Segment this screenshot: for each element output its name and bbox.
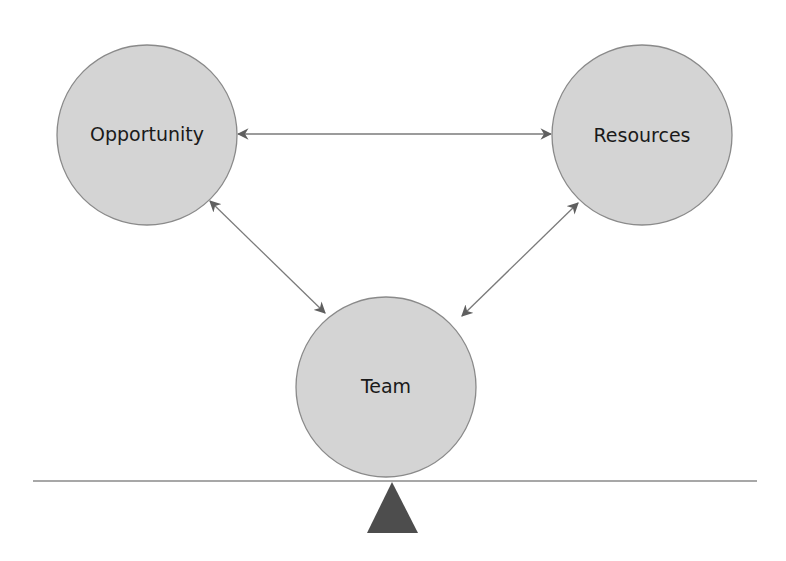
balance-diagram: Opportunity Resources Team <box>0 0 786 561</box>
node-resources: Resources <box>552 45 732 225</box>
node-team: Team <box>296 297 476 477</box>
arrow-resources-team <box>462 203 578 316</box>
fulcrum-triangle <box>367 482 418 533</box>
node-label-team: Team <box>360 375 411 397</box>
arrow-opportunity-team <box>210 201 325 313</box>
node-label-resources: Resources <box>593 124 690 146</box>
node-label-opportunity: Opportunity <box>90 123 204 145</box>
node-opportunity: Opportunity <box>57 45 237 225</box>
